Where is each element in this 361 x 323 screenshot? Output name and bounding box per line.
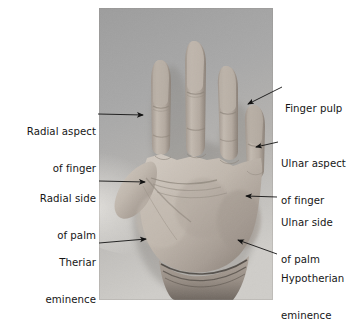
label-line-1: Radial aspect xyxy=(10,126,96,138)
label-thenar-eminence: Theriar eminence xyxy=(22,232,96,323)
label-line-2: eminence xyxy=(281,310,357,322)
label-line-1: Ulnar side xyxy=(281,217,351,229)
label-line-1: Hypotherian xyxy=(281,273,357,285)
hand-photograph xyxy=(99,8,273,300)
label-line-1: Theriar xyxy=(22,257,96,269)
label-line-2: eminence xyxy=(22,294,96,306)
hand-photo-graphic xyxy=(99,8,273,300)
label-line-1: Ulnar aspect xyxy=(281,158,359,170)
label-line-1: Radial side xyxy=(16,193,96,205)
label-hypothenar-eminence: Hypotherian eminence xyxy=(281,248,357,323)
label-finger-pulp: Finger pulp xyxy=(285,78,359,140)
label-line-1: Finger pulp xyxy=(285,103,359,115)
